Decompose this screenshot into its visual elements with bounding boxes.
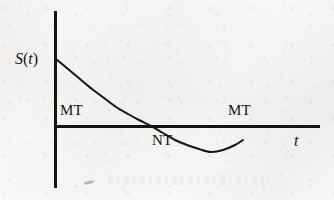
regime-label-middle-nt: NT [152, 133, 172, 148]
y-axis-label-close-paren: ) [33, 50, 38, 67]
x-axis-label: t [294, 133, 298, 149]
regime-label-left-mt: MT [60, 103, 83, 118]
regime-label-right-mt: MT [228, 103, 251, 118]
scan-ghost-text-artifact [108, 176, 268, 185]
s-of-t-curve [56, 59, 243, 152]
y-axis-label: S(t) [15, 51, 38, 67]
y-axis-label-variable: S [15, 50, 23, 67]
figure-canvas: S(t) t MT NT MT [0, 0, 334, 200]
plot-area [0, 0, 334, 200]
